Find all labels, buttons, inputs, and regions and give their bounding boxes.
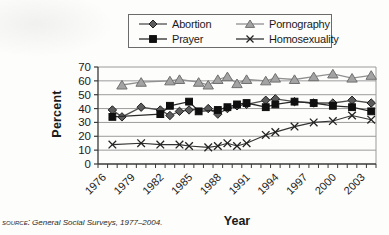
series-prayer-marker [109,113,116,120]
y-axis-title: Percent [50,90,64,137]
y-tick-label-40: 40 [78,103,91,115]
series-abortion-marker [348,96,356,104]
series-prayer-marker [243,100,250,107]
source-text: General Social Surveys, 1977–2004. [32,218,162,227]
series-prayer-marker [262,104,269,111]
source-note: source:General Social Surveys, 1977–2004… [2,217,162,227]
series-abortion-marker [185,106,193,114]
series-pornography-marker [213,75,223,84]
x-tick-label-1982: 1982 [140,171,166,197]
series-prayer-marker [166,102,173,109]
series-pornography-marker [203,80,213,89]
x-tick-label-1991: 1991 [226,171,252,197]
series-prayer-marker [349,104,356,111]
series-prayer-marker [310,100,317,107]
y-tick-label-60: 60 [78,75,91,87]
series-abortion-marker [204,104,212,112]
series-prayer-marker [157,111,164,118]
series-prayer-marker [195,108,202,115]
x-tick-label-1997: 1997 [284,171,310,197]
x-axis-title: Year [224,214,250,228]
series-abortion-marker [262,96,270,104]
y-tick-label-70: 70 [78,61,91,73]
series-prayer-marker [368,108,375,115]
series-pornography-marker [222,72,232,81]
series-pornography-marker [366,71,376,80]
x-tick-label-1988: 1988 [197,171,223,197]
x-tick-label-2003: 2003 [341,171,367,197]
x-tick-label-2000: 2000 [312,171,338,197]
series-prayer-marker [186,98,193,105]
x-tick-label-1994: 1994 [255,171,281,197]
series-abortion-marker [137,103,145,111]
series-abortion-marker [367,99,375,107]
series-pornography-marker [174,75,184,84]
series-prayer-marker [272,101,279,108]
y-tick-label-20: 20 [78,130,91,142]
y-tick-label-10: 10 [78,144,91,156]
x-tick-label-1979: 1979 [111,171,137,197]
series-prayer-marker [234,101,241,108]
series-prayer-marker [291,98,298,105]
series-prayer-marker [329,102,336,109]
series-abortion-marker [166,111,174,119]
source-label: source: [2,217,30,227]
series-prayer-marker [224,104,231,111]
x-tick-label-1985: 1985 [169,171,195,197]
y-tick-label-0: 0 [85,158,91,170]
series-prayer-marker [214,107,221,114]
series-pornography-marker [328,69,338,78]
x-tick-label-1976: 1976 [82,171,108,197]
y-tick-label-30: 30 [78,116,91,128]
y-tick-label-50: 50 [78,89,91,101]
scanned-chart-figure: AbortionPornographyPrayerHomosexuality 0… [0,0,389,235]
